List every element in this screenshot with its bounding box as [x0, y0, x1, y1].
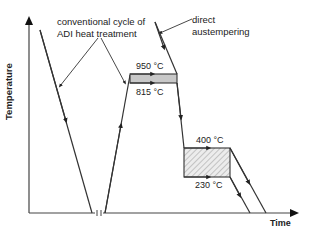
- conventional-label-line1: conventional cycle of: [57, 16, 145, 27]
- conventional-label-line2: ADI heat treatment: [57, 28, 137, 39]
- austempering-box: [184, 148, 230, 177]
- direct-label-line2: austempering: [192, 26, 250, 37]
- conventional-cycle-curve: [40, 30, 130, 213]
- axis-break-icon: [95, 210, 103, 216]
- y-axis-arrow-icon: [25, 16, 33, 25]
- temp-400-label: 400 °C: [196, 135, 224, 146]
- temp-230-label: 230 °C: [195, 180, 223, 191]
- heat-treatment-diagram: [0, 0, 315, 237]
- direct-label-line1: direct: [192, 14, 215, 25]
- temp-815-label: 815 °C: [136, 87, 164, 98]
- y-axis-label: Temperature: [3, 63, 14, 120]
- austenitizing-box: [130, 74, 177, 83]
- direct-austempering-curve: [155, 22, 184, 148]
- x-axis-label: Time: [270, 218, 291, 229]
- temp-950-label: 950 °C: [136, 61, 164, 72]
- x-axis-arrow-icon: [290, 209, 299, 217]
- y-axis: [25, 16, 33, 213]
- final-cooling-curves: [230, 148, 266, 213]
- x-axis: [29, 209, 299, 217]
